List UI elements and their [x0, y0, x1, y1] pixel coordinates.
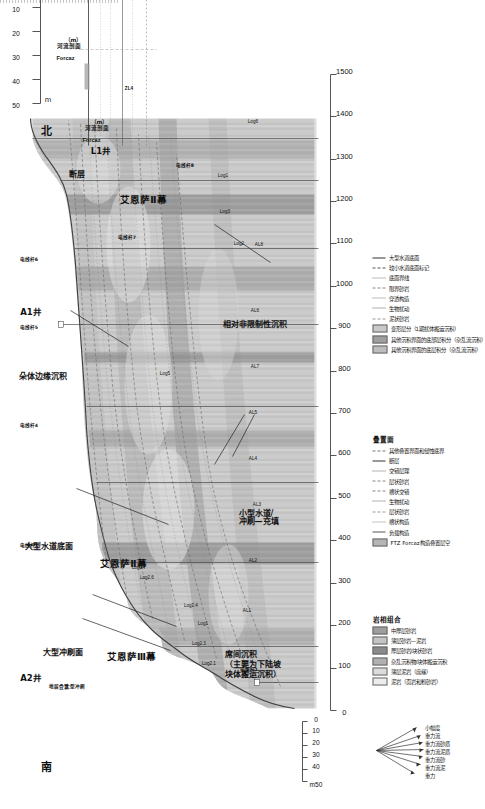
tick-300: 300	[338, 577, 351, 585]
outcrop-label-5: 电线杆5	[19, 325, 37, 330]
legend-swatch-icon	[372, 345, 387, 353]
direction-south: 南	[40, 762, 51, 774]
legend-swatch-icon	[372, 324, 387, 332]
legend-item: 薄层泥岩（席缘）	[372, 667, 447, 675]
legend-label: 中厚层砂岩	[390, 626, 415, 634]
annotation-unit-2-mid: 艾恩萨Ⅱ幕	[100, 559, 146, 569]
legend-swatch-icon	[372, 538, 387, 546]
legend-item: 杂乱沉积物/块体搬运沉积	[372, 657, 447, 665]
vscale-left-30: 30	[312, 752, 319, 759]
rose-diagram: 小幅度 重力流 重力流砂质 重力流泥质 重力流砂 重力流泥 重力	[372, 723, 482, 777]
rose-ray-label: 重力流砂质	[424, 739, 449, 747]
legend-label: 薄层砂岩—泥岩	[390, 636, 425, 644]
annotation-small-channel-line1: 小型水道/ 冲刷—充填	[238, 509, 278, 526]
vscale-left-20: 20	[312, 740, 319, 747]
rose-ray-label: 小幅度	[424, 723, 439, 731]
dotted-line-icon	[372, 277, 385, 278]
legend-label: 薄层泥岩（席缘）	[390, 667, 430, 675]
solid-line-icon	[372, 460, 385, 461]
legend-label: 大型水道底面	[388, 253, 418, 261]
dotted-line-icon	[372, 297, 385, 298]
legend-swatch-icon	[372, 636, 387, 644]
channel-complex-body	[18, 78, 318, 714]
legend-label: 槽状交错	[388, 487, 408, 495]
tick-700: 700	[338, 407, 351, 415]
legend-item: 薄层砂岩—泥岩	[372, 636, 447, 644]
legend-label: 其他沉积界面的底部层积分（杂乱流沉积）	[390, 335, 485, 343]
legend-label: 限界砂岩	[388, 284, 408, 292]
legend-swatch-icon	[372, 335, 387, 343]
tick-800: 800	[338, 365, 351, 373]
tick-600: 600	[338, 449, 351, 457]
annotation-channel-base: 大型水道底面	[24, 543, 72, 551]
dashed-line-icon	[372, 480, 385, 481]
dashed-line-icon	[372, 450, 385, 451]
legend-label: FTZ Forcaz构造叠置层空	[390, 538, 449, 546]
vscale-left-m50: m50	[309, 781, 322, 788]
surface-label-al8: AL8	[254, 243, 262, 248]
annotation-unconfined: 相对非限制性沉积	[222, 321, 286, 329]
legend-item: 生物扰动	[372, 304, 485, 312]
solid-line-icon	[372, 257, 385, 258]
direction-north: 北	[40, 126, 51, 138]
dashed-line-icon	[372, 490, 385, 491]
tick-1100: 1100	[336, 237, 352, 245]
rose-ray-label: 重力流泥质	[424, 747, 449, 755]
vscale-right-10: 10	[12, 6, 20, 13]
legend-surfaces-title: 叠置面	[372, 433, 449, 443]
legend-item: 其他叠置界面和侵蚀底界	[372, 446, 449, 454]
vscale-right-20: 20	[12, 30, 20, 37]
legend-item: 底面界线	[372, 273, 485, 281]
legend-item: 限界砂岩	[372, 284, 485, 292]
tick-1400: 1400	[336, 110, 353, 118]
legend-label: 其他沉积界面的底层积分（杂乱流沉积）	[390, 345, 480, 353]
legend-item: 泥岩（页岩和粉砂岩）	[372, 677, 447, 685]
well-label-l1: L1井	[90, 146, 110, 155]
vscale-right-50: 50	[12, 102, 20, 109]
log-label-6: Log6	[247, 119, 257, 124]
legend-label: 厚层砂岩/块状砂岩	[390, 646, 432, 654]
outcrop-label-8: 电线杆8	[175, 163, 193, 168]
legend-item: 泥状砂岩	[372, 314, 485, 322]
legend-item: 变形层分（1期扰体搬运沉积）	[372, 324, 485, 332]
log-label-5: Log5	[159, 371, 169, 376]
vscale-left-0: 0	[314, 717, 318, 724]
annotation-interlobe: 席间沉积 （主要为下陆坡 块体搬运沉积）	[224, 649, 280, 679]
tick-400: 400	[338, 534, 351, 542]
legend-item: 较小水道底面标记	[372, 263, 485, 271]
vscale-right-30: 30	[12, 54, 20, 61]
legend-item: 生物扰动	[372, 497, 449, 505]
legend-swatch-icon	[372, 677, 387, 685]
vscale-left-10: 10	[312, 728, 319, 735]
annotation-unit-2-north: 艾恩萨Ⅱ幕	[120, 195, 166, 205]
legend-label: 杂乱沉积物/块体搬运沉积	[390, 657, 447, 665]
outcrop-label-7: 电线杆7	[117, 235, 135, 240]
dashed-line-icon	[372, 511, 385, 512]
tick-1500: 1500	[336, 68, 353, 76]
l1-well-panel	[70, 0, 160, 149]
legend-surfaces: 叠置面 其他叠置界面和侵蚀底界 断层 交错层理 层状砂岩 槽状交错	[372, 433, 449, 548]
legend-label: 泥岩（页岩和粉砂岩）	[390, 677, 440, 685]
dashed-line-icon	[372, 267, 385, 268]
legend-label: 槽状构造	[388, 517, 408, 525]
surface-label-al4: AL4	[248, 457, 256, 462]
legend-item: 槽状构造	[372, 517, 449, 525]
vscale-right-unit: m	[44, 96, 51, 103]
legend-swatch-icon	[372, 657, 387, 665]
surface-label-al2: AL2	[248, 559, 256, 564]
forcaz-inset-2: 河流剖面	[57, 43, 81, 49]
surface-label-al6: AL6	[250, 309, 258, 314]
legend-item: 交错层理	[372, 466, 449, 474]
rose-ray-label: 重力流泥	[424, 763, 444, 771]
vscale-right-40: 40	[12, 78, 20, 85]
vertical-scale-right	[26, 0, 60, 109]
dotted-line-icon	[372, 521, 385, 522]
legend-label: 泥状砂岩	[388, 314, 408, 322]
tick-100: 100	[338, 662, 351, 670]
legend-item: 层状砂岩	[372, 477, 449, 485]
legend-label: 穿透构造	[388, 294, 408, 302]
well-label-a1: A1井	[20, 308, 42, 317]
legend-swatch-icon	[372, 646, 387, 654]
tick-1200: 1200	[336, 195, 353, 203]
